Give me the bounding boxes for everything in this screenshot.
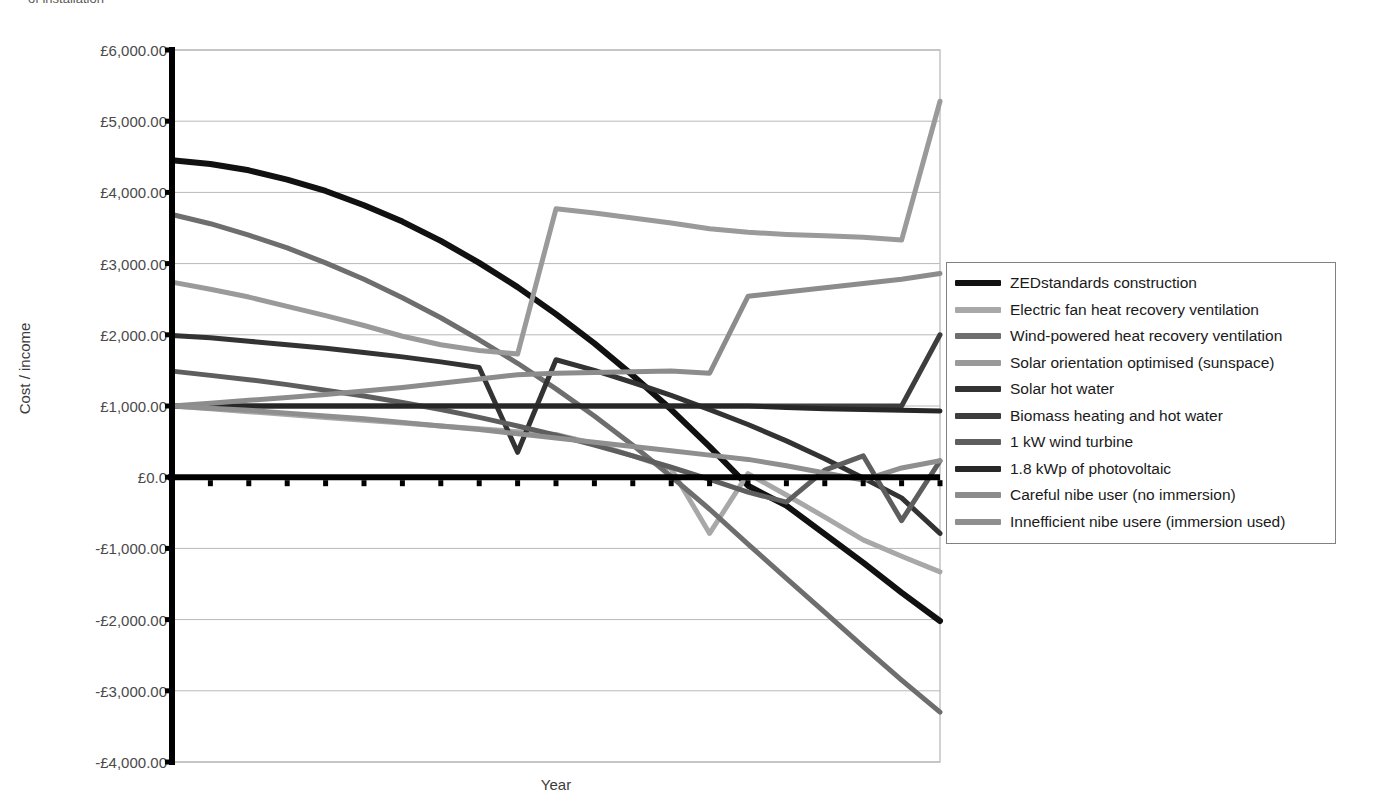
legend-color-swatch <box>955 307 1001 313</box>
legend-item[interactable]: Wind-powered heat recovery ventilation <box>955 323 1329 350</box>
legend-label: 1 kW wind turbine <box>1010 433 1133 451</box>
legend-label: Careful nibe user (no immersion) <box>1010 486 1236 504</box>
legend-color-swatch <box>955 519 1001 525</box>
legend-item[interactable]: Solar hot water <box>955 376 1329 403</box>
legend-label: Electric fan heat recovery ventilation <box>1010 301 1259 319</box>
legend-color-swatch <box>955 492 1001 498</box>
legend-label: Solar orientation optimised (sunspace) <box>1010 354 1275 372</box>
legend-item[interactable]: Biomass heating and hot water <box>955 403 1329 430</box>
legend-color-swatch <box>955 466 1001 472</box>
legend-color-swatch <box>955 413 1001 419</box>
legend-item[interactable]: ZEDstandards construction <box>955 270 1329 297</box>
legend-color-swatch <box>955 439 1001 445</box>
legend-item[interactable]: Electric fan heat recovery ventilation <box>955 297 1329 324</box>
legend-label: ZEDstandards construction <box>1010 274 1197 292</box>
legend-label: Innefficient nibe usere (immersion used) <box>1010 513 1285 531</box>
legend-item[interactable]: Innefficient nibe usere (immersion used) <box>955 509 1329 536</box>
legend-item[interactable]: Solar orientation optimised (sunspace) <box>955 350 1329 377</box>
legend-label: Wind-powered heat recovery ventilation <box>1010 327 1282 345</box>
legend-item[interactable]: Careful nibe user (no immersion) <box>955 482 1329 509</box>
legend-label: Biomass heating and hot water <box>1010 407 1223 425</box>
chart-page: of installation Cost / income Year £6,00… <box>0 0 1389 810</box>
legend-color-swatch <box>955 333 1001 339</box>
legend-color-swatch <box>955 280 1001 286</box>
legend-label: Solar hot water <box>1010 380 1114 398</box>
legend-color-swatch <box>955 386 1001 392</box>
legend-item[interactable]: 1 kW wind turbine <box>955 429 1329 456</box>
legend-color-swatch <box>955 360 1001 366</box>
legend-label: 1.8 kWp of photovoltaic <box>1010 460 1171 478</box>
chart-legend: ZEDstandards constructionElectric fan he… <box>946 262 1336 544</box>
legend-item[interactable]: 1.8 kWp of photovoltaic <box>955 456 1329 483</box>
